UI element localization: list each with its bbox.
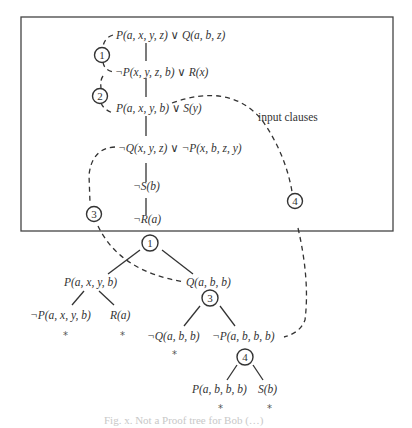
marker-1-root-label: 1 xyxy=(147,237,153,249)
input-clauses-label: input clauses xyxy=(258,112,318,124)
marker-4-tree-label: 4 xyxy=(242,351,248,363)
closed-marker: * xyxy=(218,404,223,414)
tree-edges xyxy=(72,250,263,380)
input-clause-5: ¬S(b) xyxy=(133,181,160,193)
tree-node-notP-abbb: ¬P(a, b, b, b) xyxy=(212,331,275,343)
marker-2-label: 2 xyxy=(97,90,103,102)
figure-caption: Fig. x. Not a Proof tree for Bob (…) xyxy=(104,414,263,426)
tree-node-S-b: S(b) xyxy=(258,384,277,396)
marker-3-box-label: 3 xyxy=(91,208,97,220)
marker-1-top-label: 1 xyxy=(99,49,105,61)
tree-node-R-a: R(a) xyxy=(110,310,130,322)
tree-node-P-axyb: P(a, x, y, b) xyxy=(64,277,117,289)
tree-node-notP-axyb: ¬P(a, x, y, b) xyxy=(30,310,91,322)
input-clauses-box xyxy=(21,17,393,231)
closed-marker: * xyxy=(63,331,68,341)
diagram-lines: 1 2 3 4 1 3 4 xyxy=(0,0,412,428)
marker-4-box-label: 4 xyxy=(292,195,298,207)
tree-node-P-abbb: P(a, b, b, b) xyxy=(192,384,247,396)
input-clause-6: ¬R(a) xyxy=(133,214,161,226)
input-clause-2: ¬P(x, y, z, b) ∨ R(x) xyxy=(115,67,208,79)
closed-marker: * xyxy=(267,404,272,414)
tree-node-notQ-abb: ¬Q(a, b, b) xyxy=(147,331,199,343)
closed-marker: * xyxy=(172,350,177,360)
input-clause-4: ¬Q(x, y, z) ∨ ¬P(x, b, z, y) xyxy=(118,143,242,155)
clause-tableau-diagram: 1 2 3 4 1 3 4 P(a, x, y, z) ∨ Q(a, b, z)… xyxy=(0,0,412,428)
tree-node-Q-abb: Q(a, b, b) xyxy=(186,277,231,289)
input-clause-3: P(a, x, y, b) ∨ S(y) xyxy=(116,103,202,115)
closed-marker: * xyxy=(120,331,125,341)
input-clause-1: P(a, x, y, z) ∨ Q(a, b, z) xyxy=(116,30,225,42)
dashed-arcs xyxy=(89,35,306,337)
marker-3-tree-label: 3 xyxy=(207,292,213,304)
